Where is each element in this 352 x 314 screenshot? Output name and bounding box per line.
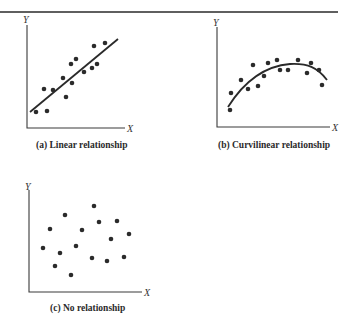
fit-curve-b bbox=[228, 64, 327, 107]
panel-none: Y X (c) No relationship bbox=[25, 181, 151, 314]
data-point bbox=[90, 256, 95, 261]
data-point bbox=[51, 88, 56, 93]
data-point bbox=[61, 76, 66, 81]
data-point bbox=[48, 227, 53, 232]
data-point bbox=[246, 87, 251, 92]
y-axis-label-c: Y bbox=[25, 181, 32, 192]
data-point bbox=[228, 108, 233, 113]
axes-b bbox=[217, 27, 330, 127]
data-point bbox=[45, 109, 50, 114]
data-point bbox=[80, 228, 85, 233]
y-axis-label-a: Y bbox=[23, 14, 30, 25]
caption-b: (b) Curvilinear relationship bbox=[218, 140, 330, 151]
axes-c bbox=[29, 190, 142, 292]
axes-a bbox=[27, 25, 125, 128]
data-point bbox=[296, 58, 301, 63]
data-point bbox=[239, 78, 244, 83]
caption-c: (c) No relationship bbox=[50, 303, 125, 314]
data-point bbox=[95, 62, 100, 67]
data-point bbox=[266, 61, 271, 66]
data-point bbox=[74, 57, 79, 62]
data-point bbox=[251, 63, 256, 68]
fit-line-a bbox=[30, 39, 118, 112]
data-point bbox=[317, 68, 322, 73]
data-point bbox=[63, 213, 68, 218]
data-point bbox=[275, 58, 280, 63]
data-point bbox=[103, 41, 108, 46]
data-point bbox=[286, 68, 291, 73]
data-point bbox=[69, 273, 74, 278]
figure-canvas: Y X (a) Linear relationship Y X (b) Curv… bbox=[0, 0, 352, 314]
data-point bbox=[74, 244, 79, 249]
data-point bbox=[82, 70, 87, 75]
data-point bbox=[34, 110, 39, 115]
data-point bbox=[90, 66, 95, 71]
data-point bbox=[115, 219, 120, 224]
data-point bbox=[69, 62, 74, 67]
points-c bbox=[41, 204, 132, 278]
data-point bbox=[309, 61, 314, 66]
x-axis-label-a: X bbox=[126, 123, 134, 134]
data-point bbox=[70, 81, 75, 86]
data-point bbox=[53, 264, 58, 269]
data-point bbox=[256, 84, 261, 89]
data-point bbox=[97, 220, 102, 225]
x-axis-label-c: X bbox=[143, 287, 151, 298]
data-point bbox=[229, 91, 234, 96]
data-point bbox=[41, 246, 46, 251]
data-point bbox=[58, 251, 63, 256]
data-point bbox=[122, 255, 127, 260]
y-axis-label-b: Y bbox=[213, 17, 220, 28]
data-point bbox=[262, 74, 267, 79]
x-axis-label-b: X bbox=[331, 122, 339, 133]
caption-a: (a) Linear relationship bbox=[36, 140, 128, 151]
data-point bbox=[278, 68, 283, 73]
data-point bbox=[105, 259, 110, 264]
panel-linear: Y X (a) Linear relationship bbox=[23, 14, 134, 151]
data-point bbox=[109, 237, 114, 242]
data-point bbox=[92, 44, 97, 49]
data-point bbox=[127, 232, 132, 237]
panel-curvilinear: Y X (b) Curvilinear relationship bbox=[213, 17, 339, 151]
data-point bbox=[64, 95, 69, 100]
data-point bbox=[305, 71, 310, 76]
data-point bbox=[92, 204, 97, 209]
data-point bbox=[320, 83, 325, 88]
data-point bbox=[42, 87, 47, 92]
